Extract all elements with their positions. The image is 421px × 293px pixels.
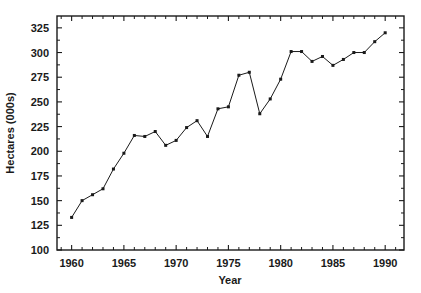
data-point-marker <box>164 144 167 147</box>
line-chart: 100125150175200225250275300325 196019651… <box>0 0 421 293</box>
data-point-marker <box>175 139 178 142</box>
data-point-marker <box>258 112 261 115</box>
data-series-markers <box>70 31 387 219</box>
y-tick-label: 100 <box>31 244 49 256</box>
y-tick-label: 300 <box>31 47 49 59</box>
y-axis-major-ticks <box>57 28 404 250</box>
data-point-marker <box>342 58 345 61</box>
y-axis-title: Hectares (000s) <box>4 92 16 174</box>
y-tick-label: 275 <box>31 71 49 83</box>
data-point-marker <box>237 74 240 77</box>
data-point-marker <box>122 152 125 155</box>
data-series-line <box>72 33 386 218</box>
x-tick-label: 1975 <box>216 257 240 269</box>
chart-canvas: 100125150175200225250275300325 196019651… <box>0 0 421 293</box>
x-tick-label: 1960 <box>59 257 83 269</box>
x-tick-label: 1970 <box>164 257 188 269</box>
y-axis-minor-ticks <box>57 40 404 237</box>
data-point-marker <box>279 78 282 81</box>
data-point-marker <box>290 50 293 53</box>
data-point-marker <box>248 71 251 74</box>
data-point-marker <box>321 55 324 58</box>
data-point-marker <box>363 51 366 54</box>
y-axis-tick-labels: 100125150175200225250275300325 <box>31 22 49 256</box>
y-tick-label: 125 <box>31 219 49 231</box>
y-tick-label: 200 <box>31 145 49 157</box>
data-point-marker <box>91 193 94 196</box>
data-point-marker <box>300 50 303 53</box>
data-point-marker <box>331 64 334 67</box>
y-tick-label: 250 <box>31 96 49 108</box>
x-axis-tick-labels: 1960196519701975198019851990 <box>59 257 397 269</box>
data-point-marker <box>154 130 157 133</box>
data-point-marker <box>384 31 387 34</box>
data-point-marker <box>227 105 230 108</box>
plot-frame <box>57 16 404 250</box>
data-point-marker <box>269 97 272 100</box>
x-tick-label: 1985 <box>321 257 345 269</box>
x-axis-minor-ticks <box>61 16 395 250</box>
x-axis-title: Year <box>218 274 242 286</box>
data-point-marker <box>373 40 376 43</box>
data-point-marker <box>101 187 104 190</box>
x-tick-label: 1965 <box>112 257 136 269</box>
data-point-marker <box>143 135 146 138</box>
data-point-marker <box>133 134 136 137</box>
data-point-marker <box>112 168 115 171</box>
data-point-marker <box>185 126 188 129</box>
data-point-marker <box>311 60 314 63</box>
plot-area-border <box>57 16 404 250</box>
data-point-marker <box>206 135 209 138</box>
data-point-marker <box>196 119 199 122</box>
data-point-marker <box>81 199 84 202</box>
x-tick-label: 1980 <box>268 257 292 269</box>
data-point-marker <box>216 107 219 110</box>
data-point-marker <box>352 51 355 54</box>
x-axis-major-ticks <box>72 16 386 250</box>
x-tick-label: 1990 <box>373 257 397 269</box>
y-tick-label: 175 <box>31 170 49 182</box>
y-tick-label: 225 <box>31 121 49 133</box>
y-tick-label: 150 <box>31 195 49 207</box>
data-point-marker <box>70 216 73 219</box>
y-tick-label: 325 <box>31 22 49 34</box>
